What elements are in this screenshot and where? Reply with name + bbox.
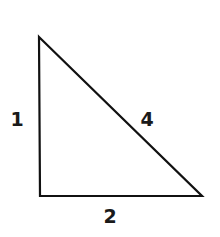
bottom-side-label: 2 xyxy=(103,205,116,227)
left-side-label: 1 xyxy=(10,108,23,130)
background xyxy=(0,0,220,237)
hypotenuse-label: 4 xyxy=(140,108,153,130)
triangle-diagram: 1 4 2 xyxy=(0,0,220,237)
